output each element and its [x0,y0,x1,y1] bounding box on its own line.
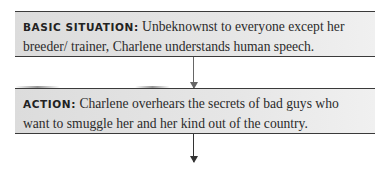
step-label: BASIC SITUATION: [23,21,139,33]
step-action: ACTION: Charlene overhears the secrets o… [15,88,375,134]
arrow-down-icon [193,57,194,88]
step-basic-situation: BASIC SITUATION: Unbeknownst to everyone… [15,11,375,57]
step-label: ACTION: [23,98,76,110]
arrow-down-icon [193,134,194,162]
